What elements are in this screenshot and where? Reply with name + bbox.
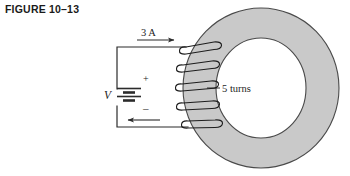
toroid-core-icon [183,8,339,168]
positive-terminal-label: + [143,73,149,84]
battery-symbol-icon [117,89,141,101]
top-lead-wire [117,47,186,89]
toroid-circuit-diagram: V + – 3 A 5 turns [0,0,350,176]
figure-page: FIGURE 10–13 [0,0,350,176]
turns-label: 5 turns [222,83,251,94]
circuit-wiring [117,47,188,127]
negative-terminal-label: – [142,102,149,114]
current-label: 3 A [141,27,156,38]
source-voltage-label: V [104,89,113,101]
